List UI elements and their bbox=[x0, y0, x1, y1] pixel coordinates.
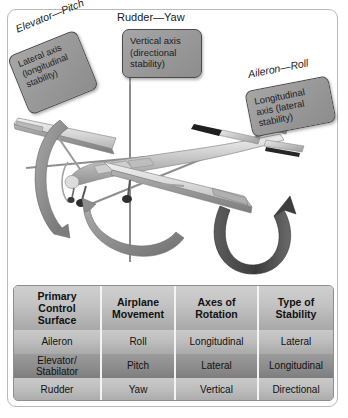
callout-box-rudder: Vertical axis (directional stability) bbox=[122, 29, 202, 78]
table-cell-stability: Longitudinal bbox=[259, 354, 333, 378]
table-cell-movement: Yaw bbox=[102, 378, 176, 401]
table-cell-movement: Pitch bbox=[102, 354, 176, 378]
table-cell-control-surface: Elevator/ Stabilator bbox=[14, 354, 102, 378]
yaw-rotation-arrow bbox=[82, 198, 184, 256]
callout-title-rudder: Rudder—Yaw bbox=[117, 11, 185, 23]
table-cell-control-surface: Aileron bbox=[14, 330, 102, 354]
table-header-cell-axes-of-rotation: Axes of Rotation bbox=[176, 286, 259, 330]
table-header-cell-primary-control-surface: Primary Control Surface bbox=[14, 286, 102, 330]
roll-rotation-arrow bbox=[214, 196, 296, 274]
table-cell-control-surface: Rudder bbox=[14, 378, 102, 401]
control-surface-table: Primary Control Surface Airplane Movemen… bbox=[13, 285, 334, 401]
table-cell-stability: Directional bbox=[259, 378, 333, 401]
table-header-cell-type-of-stability: Type of Stability bbox=[259, 286, 333, 330]
table-cell-movement: Roll bbox=[102, 330, 176, 354]
figure-axes-of-rotation: Rudder—Yaw Vertical axis (directional st… bbox=[0, 0, 348, 418]
table-row: Aileron Roll Longitudinal Lateral bbox=[14, 330, 333, 354]
table-row: Elevator/ Stabilator Pitch Lateral Longi… bbox=[14, 354, 333, 378]
table-cell-axis: Lateral bbox=[176, 354, 259, 378]
table-header-cell-airplane-movement: Airplane Movement bbox=[102, 286, 176, 330]
table-cell-axis: Longitudinal bbox=[176, 330, 259, 354]
table-cell-axis: Vertical bbox=[176, 378, 259, 401]
table-header-row: Primary Control Surface Airplane Movemen… bbox=[14, 286, 333, 330]
table-row: Rudder Yaw Vertical Directional bbox=[14, 378, 333, 401]
table-cell-stability: Lateral bbox=[259, 330, 333, 354]
